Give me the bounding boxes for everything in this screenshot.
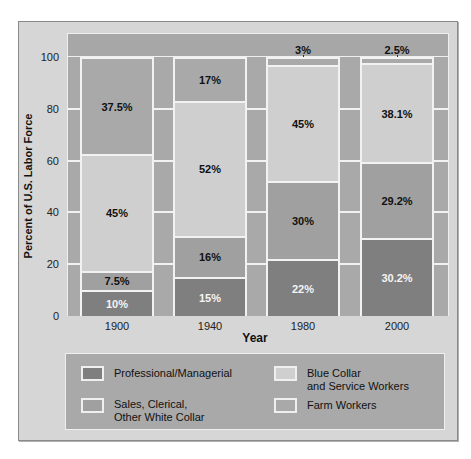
bar-1940: 15%16%52%17% (173, 57, 247, 316)
bar-segment-sales: 29.2% (362, 162, 432, 238)
bar-segment-blue: 45% (82, 154, 152, 271)
y-tick-label: 40 (47, 206, 59, 218)
legend-swatch-blue-collar (274, 366, 297, 381)
bar-2000: 30.2%29.2%38.1% (360, 57, 434, 316)
y-tick-label: 80 (47, 103, 59, 115)
bar-segment-farm: 37.5% (82, 57, 152, 154)
legend-swatch-professional (81, 366, 104, 381)
bar-1900: 10%7.5%45%37.5% (80, 57, 154, 316)
legend-label-professional: Professional/Managerial (114, 367, 232, 380)
y-tick-label: 100 (41, 51, 59, 63)
bar-segment-sales: 7.5% (82, 271, 152, 290)
y-axis-label: Percent of U.S. Labor Force (22, 114, 34, 259)
legend: Professional/Managerial Sales, Clerical,… (65, 353, 445, 430)
bar-segment-blue: 38.1% (362, 63, 432, 162)
x-tick-label: 1900 (105, 320, 129, 332)
legend-swatch-farm (274, 398, 297, 413)
bar-segment-farm (268, 57, 338, 65)
bar-segment-prof: 10% (82, 290, 152, 316)
legend-swatch-sales (81, 398, 104, 413)
x-tick-label: 1980 (291, 320, 315, 332)
x-tick-label: 1940 (198, 320, 222, 332)
bar-segment-prof: 15% (175, 277, 245, 316)
x-axis-label: Year (242, 331, 267, 345)
x-tick-label: 2000 (385, 320, 409, 332)
bar-segment-farm: 17% (175, 57, 245, 101)
y-tick-label: 0 (53, 310, 59, 322)
bar-segment-farm (362, 57, 432, 63)
y-tick-label: 60 (47, 155, 59, 167)
legend-label-farm: Farm Workers (307, 399, 376, 412)
bar-segment-sales: 16% (175, 236, 245, 277)
y-tick-label: 20 (47, 258, 59, 270)
bar-segment-blue: 45% (268, 65, 338, 182)
bar-segment-prof: 22% (268, 259, 338, 316)
bar-1980: 22%30%45% (266, 57, 340, 316)
legend-label-blue-collar: Blue Collarand Service Workers (307, 367, 409, 393)
bar-segment-blue: 52% (175, 101, 245, 236)
legend-label-sales: Sales, Clerical,Other White Collar (114, 398, 204, 424)
bar-segment-prof: 30.2% (362, 238, 432, 316)
bar-segment-sales: 30% (268, 181, 338, 259)
